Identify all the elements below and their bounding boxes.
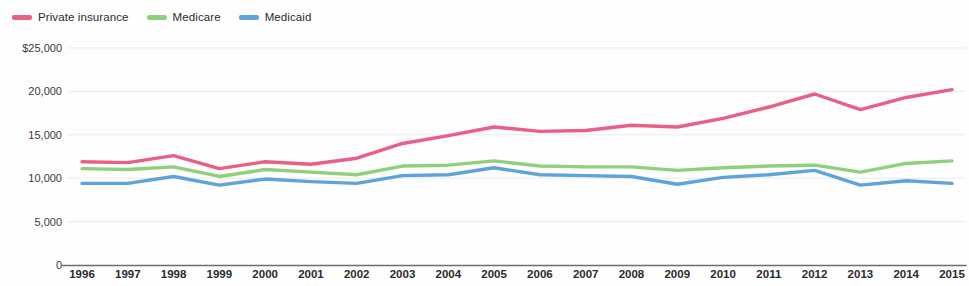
x-axis-tick-label: 2013: [848, 268, 874, 280]
x-axis-tick-label: 2014: [893, 268, 919, 280]
x-axis-tick-label: 1998: [161, 268, 187, 280]
x-axis-tick-label: 2011: [756, 268, 781, 280]
x-axis-tick-label: 2012: [802, 268, 828, 280]
x-axis-tick-label: 2007: [573, 268, 599, 280]
x-axis-tick-label: 2015: [939, 268, 965, 280]
x-axis-tick-label: 2010: [710, 268, 736, 280]
x-axis-tick-label: 2003: [390, 268, 416, 280]
x-axis-tick-label: 2006: [527, 268, 553, 280]
x-axis: 1996199719981999200020012002200320042005…: [0, 0, 969, 286]
x-axis-tick-label: 2004: [436, 268, 462, 280]
x-axis-tick-label: 2005: [481, 268, 507, 280]
line-chart: Private insurance Medicare Medicaid $25,…: [0, 0, 969, 286]
x-axis-tick-label: 2002: [344, 268, 370, 280]
x-axis-tick-label: 2000: [252, 268, 278, 280]
x-axis-tick-label: 2009: [664, 268, 690, 280]
x-axis-tick-label: 2001: [298, 268, 324, 280]
x-axis-tick-label: 2008: [619, 268, 645, 280]
x-axis-tick-label: 1997: [115, 268, 141, 280]
x-axis-tick-label: 1999: [207, 268, 233, 280]
x-axis-tick-label: 1996: [69, 268, 95, 280]
